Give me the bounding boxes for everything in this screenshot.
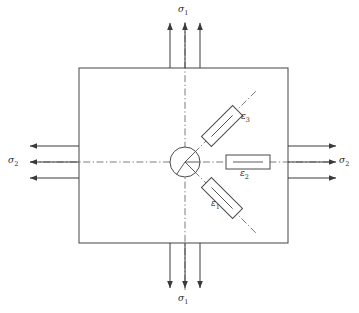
gauge-label-epsilon-2: ε2 xyxy=(240,169,249,180)
diagram-svg xyxy=(0,0,359,313)
gauge-label-epsilon-1: ε1 xyxy=(211,199,220,210)
sigma2-left-arrows xyxy=(30,146,79,178)
figure-canvas: σ1 σ1 σ2 σ2 ε1 ε2 ε3 xyxy=(0,0,359,313)
stress-label-sigma1-bottom: σ1 xyxy=(178,294,188,305)
gauge-epsilon-1 xyxy=(201,177,242,218)
sigma1-top-arrows xyxy=(170,23,200,68)
gauge-epsilon-2 xyxy=(226,155,270,169)
gauge-epsilon-3 xyxy=(201,105,242,146)
stress-label-sigma1-top: σ1 xyxy=(178,5,188,16)
stress-label-sigma2-left: σ2 xyxy=(8,156,18,167)
gauge-label-epsilon-3: ε3 xyxy=(241,112,250,123)
stress-label-sigma2-right: σ2 xyxy=(339,156,349,167)
sigma2-right-arrows xyxy=(288,146,336,178)
sigma1-bottom-arrows xyxy=(170,243,200,288)
